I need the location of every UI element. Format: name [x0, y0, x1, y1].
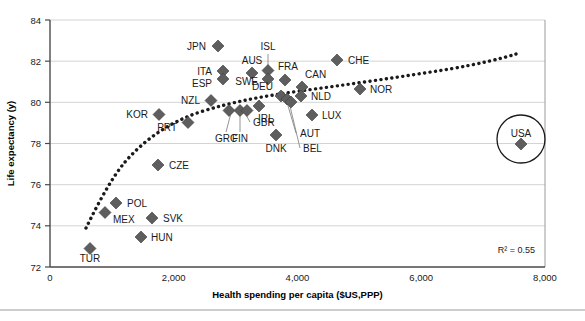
label-deu: DEU [252, 81, 273, 92]
marker-prt[interactable] [182, 117, 194, 129]
scatter-plot: 84 82 80 78 76 74 72 0 2,000 4,000 6,000… [0, 0, 585, 321]
label-esp: ESP [192, 78, 212, 89]
marker-gbr[interactable] [241, 105, 253, 117]
label-hun: HUN [151, 232, 173, 243]
ytick-label-74: 74 [30, 220, 41, 231]
r-squared-annotation: R² = 0.55 [498, 245, 535, 255]
label-fra: FRA [278, 61, 298, 72]
label-fin: FIN [232, 133, 248, 144]
marker-svk[interactable] [146, 212, 158, 224]
marker-che[interactable] [331, 54, 343, 66]
label-nld: NLD [311, 91, 331, 102]
label-aus: AUS [242, 55, 263, 66]
ytick-label-84: 84 [30, 15, 41, 26]
label-kor: KOR [126, 109, 148, 120]
marker-kor[interactable] [153, 109, 165, 121]
ytick-label-76: 76 [30, 179, 41, 190]
ytick-label-78: 78 [30, 138, 41, 149]
label-irl: IRL [258, 113, 274, 124]
marker-fra[interactable] [279, 74, 291, 86]
label-pol: POL [127, 198, 147, 209]
marker-usa[interactable] [515, 138, 527, 150]
x-axis-title: Health spending per capita ($US,PPP) [212, 289, 383, 300]
x-axis-tick-labels: 0 2,000 4,000 6,000 8,000 [47, 272, 557, 283]
gridlines [50, 20, 545, 226]
label-bel: BEL [303, 143, 322, 154]
y-axis-tick-labels: 84 82 80 78 76 74 72 [30, 15, 41, 273]
label-dnk: DNK [265, 143, 286, 154]
marker-cze[interactable] [152, 159, 164, 171]
xtick-label-0: 0 [47, 272, 52, 283]
label-nor: NOR [370, 84, 392, 95]
xtick-label-8000: 8,000 [533, 272, 557, 283]
label-prt: PRT [157, 122, 177, 133]
marker-jpn[interactable] [212, 40, 224, 52]
label-usa: USA [511, 128, 532, 139]
xtick-label-6000: 6,000 [409, 272, 433, 283]
label-ita: ITA [197, 66, 212, 77]
marker-hun[interactable] [135, 231, 147, 243]
ytick-label-80: 80 [30, 97, 41, 108]
marker-nor[interactable] [354, 83, 366, 95]
leader-bel [289, 102, 300, 148]
y-axis-title: Life expectancy (y) [5, 101, 16, 187]
label-tur: TUR [80, 253, 101, 264]
label-aut: AUT [300, 128, 320, 139]
label-isl: ISL [260, 41, 275, 52]
ytick-label-72: 72 [30, 262, 41, 273]
marker-mex[interactable] [99, 207, 111, 219]
trendline [86, 54, 516, 228]
ytick-label-82: 82 [30, 56, 41, 67]
marker-lux[interactable] [306, 109, 318, 121]
marker-nzl[interactable] [205, 95, 217, 107]
chart-figure: 84 82 80 78 76 74 72 0 2,000 4,000 6,000… [0, 0, 585, 321]
marker-dnk[interactable] [270, 129, 282, 141]
label-che: CHE [348, 55, 369, 66]
xtick-label-2000: 2,000 [162, 272, 186, 283]
marker-pol[interactable] [110, 197, 122, 209]
label-can: CAN [305, 69, 326, 80]
label-nzl: NZL [181, 95, 200, 106]
label-lux: LUX [322, 110, 342, 121]
point-labels: TUR MEX POL HUN SVK CZE KOR PRT NZL JPN … [80, 41, 532, 264]
label-jpn: JPN [187, 41, 206, 52]
label-mex: MEX [113, 214, 135, 225]
label-svk: SVK [163, 213, 183, 224]
y-axis-ticks [45, 20, 50, 267]
xtick-label-4000: 4,000 [286, 272, 310, 283]
label-cze: CZE [169, 160, 189, 171]
marker-esp[interactable] [217, 73, 229, 85]
